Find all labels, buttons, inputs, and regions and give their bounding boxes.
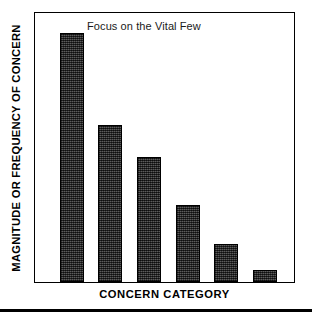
- bottom-divider-rule: [0, 309, 312, 312]
- y-axis-label-container: MAGNITUDE OR FREQUENCY OF CONCERN: [0, 12, 34, 283]
- bar-3: [137, 157, 161, 282]
- bar-2: [98, 125, 122, 282]
- bar-5: [214, 244, 238, 282]
- plot-area: Focus on the Vital Few: [35, 13, 294, 282]
- bar-4: [176, 205, 200, 282]
- y-axis-label: MAGNITUDE OR FREQUENCY OF CONCERN: [11, 24, 22, 271]
- plot-area-frame: Focus on the Vital Few: [34, 12, 295, 283]
- bar-6: [253, 270, 277, 282]
- x-axis-label: CONCERN CATEGORY: [34, 288, 295, 300]
- bar-1: [60, 33, 84, 282]
- pareto-chart-figure: MAGNITUDE OR FREQUENCY OF CONCERN Focus …: [0, 0, 312, 321]
- chart-title: Focus on the Vital Few: [87, 20, 201, 32]
